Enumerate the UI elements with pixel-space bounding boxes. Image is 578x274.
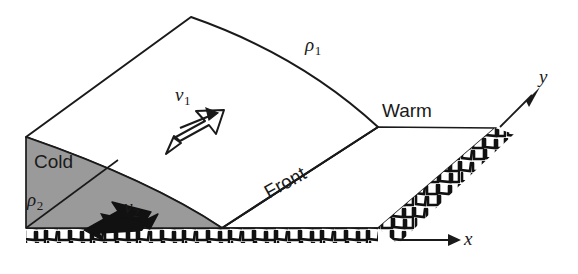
figure-canvas: ρ1 v1 Warm Cold ρ2 v2 Front x y <box>0 0 578 274</box>
cold-air-label: Cold <box>34 152 73 171</box>
y-axis-label: y <box>539 67 547 86</box>
velocity-cold-label: v2 <box>124 197 139 219</box>
ground-edge-front <box>20 226 386 248</box>
velocity-warm-label: v1 <box>175 85 190 107</box>
frontal-surface-diagram <box>0 0 578 274</box>
y-axis-arrowhead <box>526 87 540 107</box>
density-warm-label: ρ1 <box>305 35 321 57</box>
x-axis-arrowhead <box>448 234 461 246</box>
x-axis-label: x <box>464 229 472 248</box>
density-cold-label: ρ2 <box>27 190 43 212</box>
warm-air-label: Warm <box>382 101 432 120</box>
